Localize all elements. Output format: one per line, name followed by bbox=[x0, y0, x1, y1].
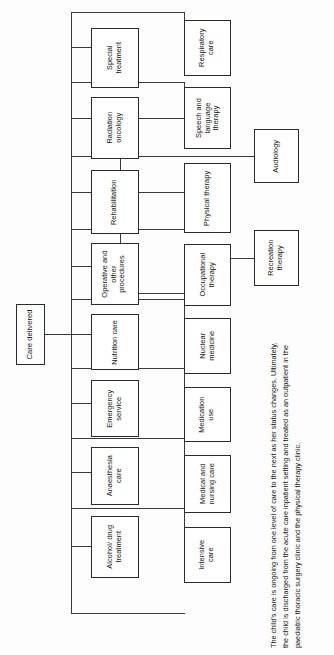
node-recreation-therapy[interactable]: Recreation therapy bbox=[254, 230, 299, 286]
node-care-delivered[interactable]: Care delivered bbox=[16, 304, 45, 365]
node-label: Anaesthesia care bbox=[106, 455, 123, 496]
rail-l2-8 bbox=[71, 613, 185, 614]
node-label: Emergency service bbox=[106, 390, 123, 428]
rail-l2-7 bbox=[71, 508, 185, 509]
node-label: Recreation therapy bbox=[268, 240, 285, 276]
node-label: Nutrition care bbox=[111, 320, 120, 365]
node-label: Alcohol/ drug treatment bbox=[106, 525, 123, 569]
figure-caption: The child's care is ongoing from one lev… bbox=[268, 333, 303, 648]
node-medication-use[interactable]: Medication use bbox=[184, 387, 231, 442]
node-operative-and-other-procedures[interactable]: Operative and other procedures bbox=[91, 243, 139, 305]
connector-l1-7 bbox=[71, 546, 91, 547]
node-label: Medical and nursing care bbox=[199, 463, 216, 504]
node-label: Radiation oncology bbox=[106, 112, 123, 144]
rail-l2-0 bbox=[71, 12, 185, 13]
node-label: Care delivered bbox=[26, 309, 35, 359]
connector-l1-6 bbox=[71, 472, 91, 473]
rail-l2-6 bbox=[71, 438, 185, 439]
node-intensive-care[interactable]: Intensive care bbox=[184, 527, 231, 583]
node-label: Intensive care bbox=[199, 540, 216, 570]
node-label: Medication use bbox=[199, 396, 216, 432]
node-speech-and-language-therapy[interactable]: Speech and language therapy bbox=[184, 87, 231, 149]
node-label: Operative and other procedures bbox=[102, 250, 128, 297]
node-label: Physical therapy bbox=[203, 170, 212, 225]
connector-root-to-spine bbox=[45, 334, 72, 335]
node-physical-therapy[interactable]: Physical therapy bbox=[184, 163, 231, 233]
connector-l1-3 bbox=[71, 266, 91, 267]
node-label: Nuclear medicine bbox=[199, 331, 216, 361]
node-emergency-service[interactable]: Emergency service bbox=[91, 380, 139, 437]
connector-l1-4 bbox=[71, 334, 91, 335]
node-anaesthesia-care[interactable]: Anaesthesia care bbox=[91, 447, 139, 505]
connector-l1-2 bbox=[71, 192, 91, 193]
node-label: Occupational therapy bbox=[199, 253, 216, 297]
node-label: Respiratory care bbox=[199, 29, 216, 67]
connector-l1-5 bbox=[71, 403, 91, 404]
connector-l3-audiology bbox=[184, 156, 254, 157]
node-respiratory-care[interactable]: Respiratory care bbox=[184, 20, 231, 76]
diagram-canvas: Care delivered Special treatment Radiati… bbox=[0, 0, 334, 655]
node-label: Special treatment bbox=[106, 42, 123, 74]
spine-level1 bbox=[71, 12, 72, 613]
node-label: Rehabilitation bbox=[111, 179, 120, 224]
connector-l1-1 bbox=[71, 118, 91, 119]
node-occupational-therapy[interactable]: Occupational therapy bbox=[184, 244, 231, 306]
node-audiology[interactable]: Audiology bbox=[254, 129, 299, 183]
node-special-treatment[interactable]: Special treatment bbox=[91, 28, 139, 88]
node-nuclear-medicine[interactable]: Nuclear medicine bbox=[184, 318, 231, 374]
node-medical-and-nursing-care[interactable]: Medical and nursing care bbox=[184, 455, 231, 513]
node-nutrition-care[interactable]: Nutrition care bbox=[91, 314, 139, 370]
node-label: Speech and language therapy bbox=[194, 98, 220, 138]
connector-l1-0 bbox=[71, 47, 91, 48]
node-rehabilitation[interactable]: Rehabilitation bbox=[91, 170, 139, 234]
node-label: Audiology bbox=[272, 140, 281, 173]
node-alcohol-drug-treatment[interactable]: Alcohol/ drug treatment bbox=[91, 516, 139, 578]
node-radiation-oncology[interactable]: Radiation oncology bbox=[91, 97, 139, 159]
